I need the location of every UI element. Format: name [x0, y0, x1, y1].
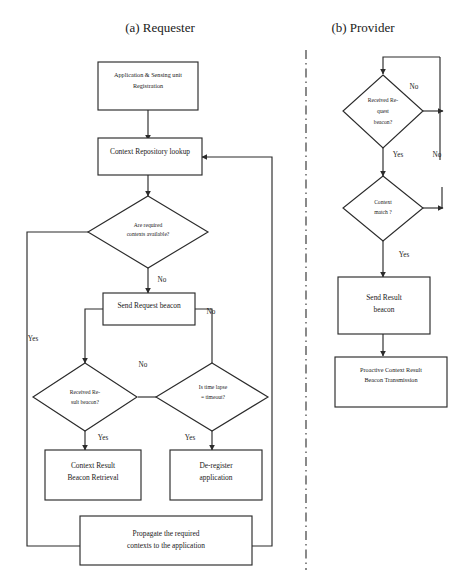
node-registration: Application & Sensing unit Registration [98, 62, 198, 110]
node-proactive: Proactive Context Result Beacon Transmis… [335, 357, 447, 407]
edge-label-recv-yes: Yes [98, 434, 109, 442]
node-ctx-match-line2: match ? [374, 209, 392, 215]
node-received-request-line3: beacon? [374, 119, 393, 125]
edge-label-provider-match-yes: Yes [399, 251, 410, 259]
node-send-request: Send Request beacon [103, 293, 195, 325]
node-deregister: De-register application [170, 450, 262, 500]
node-ctx-match: Context match ? [343, 176, 423, 241]
edge-provider-loop-to-received-request [383, 57, 440, 74]
edge-label-recv-no: No [139, 361, 148, 369]
node-time-lapse-line1: Is time lapse [199, 384, 228, 390]
node-deregister-line2: application [200, 473, 233, 482]
flowchart-figure: (a) Requester (b) Provider Application &… [0, 0, 473, 579]
edge-send-request-to-received-result [85, 309, 103, 363]
node-registration-line2: Registration [133, 82, 163, 89]
node-send-result-line2: beacon [374, 305, 395, 314]
edge-label-send-to-timeout-no: No [207, 308, 216, 316]
edge-label-provider-rail-no: No [433, 151, 442, 159]
node-received-result: Received Re- sult beacon? [33, 363, 137, 431]
edge-label-avail-no: No [158, 276, 167, 284]
node-received-result-line2: sult beacon? [71, 399, 99, 405]
node-time-lapse: Is time lapse = timeout? [156, 363, 268, 431]
edge-label-avail-yes: Yes [28, 335, 39, 343]
node-proactive-line1: Proactive Context Result [360, 366, 422, 373]
node-received-request-line1: Received Re- [368, 97, 398, 103]
node-received-request-line2: quest [377, 108, 389, 114]
node-send-request-line1: Send Request beacon [117, 301, 181, 310]
edge-label-timeout-yes: Yes [185, 434, 196, 442]
node-contexts-available: Are required contexts available? [88, 196, 208, 268]
node-propagate: Propagate the required contexts to the a… [80, 516, 252, 565]
edge-label-provider-recv-no: No [410, 83, 419, 91]
flowchart-canvas: (a) Requester (b) Provider Application &… [0, 0, 473, 579]
node-repo-lookup-line1: Context Repository lookup [110, 147, 190, 156]
node-ctx-match-line1: Context [374, 199, 392, 205]
panel-title-requester: (a) Requester [125, 20, 195, 35]
node-contexts-available-line2: contexts available? [127, 231, 170, 237]
node-ctx-retrieval: Context Result Beacon Retrieval [45, 450, 141, 500]
node-ctx-retrieval-line2: Beacon Retrieval [67, 473, 118, 482]
node-registration-line1: Application & Sensing unit [114, 71, 182, 78]
node-propagate-line1: Propagate the required [133, 529, 200, 538]
node-proactive-line2: Beacon Transmission [364, 376, 417, 383]
node-propagate-line2: contexts to the application [127, 541, 205, 550]
node-received-result-line1: Received Re- [70, 389, 100, 395]
node-send-result: Send Result beacon [338, 277, 430, 334]
edge-label-provider-recv-yes: Yes [393, 151, 404, 159]
node-contexts-available-line1: Are required [134, 222, 163, 228]
node-repo-lookup: Context Repository lookup [98, 138, 202, 175]
node-time-lapse-line2: = timeout? [201, 394, 226, 400]
node-send-result-line1: Send Result [366, 293, 402, 302]
node-deregister-line1: De-register [199, 461, 233, 470]
node-ctx-retrieval-line1: Context Result [71, 461, 116, 470]
edge-send-request-to-time-lapse [195, 309, 212, 363]
panel-title-provider: (b) Provider [331, 20, 395, 35]
